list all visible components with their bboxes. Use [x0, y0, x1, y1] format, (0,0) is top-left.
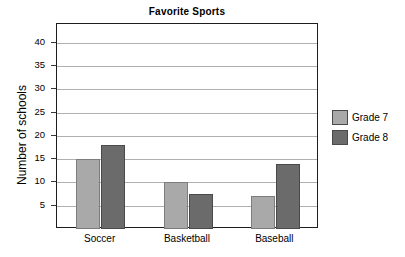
- plot-area: [56, 23, 318, 228]
- plot-inner: [57, 24, 317, 227]
- legend-item-grade-7: Grade 7: [332, 108, 388, 126]
- y-axis-tick-label: 5: [19, 200, 45, 210]
- legend-swatch-grade-8: [332, 130, 348, 145]
- y-axis-tick-label: 15: [19, 153, 45, 163]
- bar-soccer-grade-8: [101, 145, 125, 229]
- bar-baseball-grade-7: [251, 196, 275, 229]
- legend-label: Grade 8: [352, 132, 388, 143]
- bar-basketball-grade-7: [164, 182, 188, 229]
- x-axis-label-baseball: Baseball: [229, 233, 319, 244]
- legend: Grade 7Grade 8: [332, 108, 388, 148]
- gridline: [57, 89, 317, 90]
- x-axis-label-basketball: Basketball: [142, 233, 232, 244]
- y-axis-tick-label: 25: [19, 107, 45, 117]
- y-axis-tick-label: 40: [19, 37, 45, 47]
- gridline: [57, 66, 317, 67]
- chart-title: Favorite Sports: [56, 6, 318, 17]
- legend-swatch-grade-7: [332, 110, 348, 125]
- bar-baseball-grade-8: [276, 164, 300, 229]
- bar-chart: Favorite Sports Number of schools 510152…: [0, 0, 405, 257]
- legend-label: Grade 7: [352, 112, 388, 123]
- gridline: [57, 113, 317, 114]
- x-axis-label-soccer: Soccer: [55, 233, 145, 244]
- bar-soccer-grade-7: [76, 159, 100, 229]
- bar-basketball-grade-8: [189, 194, 213, 229]
- y-axis-tick-label: 35: [19, 60, 45, 70]
- y-axis-tick-label: 10: [19, 176, 45, 186]
- gridline: [57, 136, 317, 137]
- legend-item-grade-8: Grade 8: [332, 128, 388, 146]
- y-axis-tick-label: 30: [19, 83, 45, 93]
- y-axis-tick-label: 20: [19, 130, 45, 140]
- gridline: [57, 43, 317, 44]
